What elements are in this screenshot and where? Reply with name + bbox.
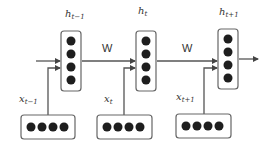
- input-arrow-3: [204, 68, 217, 114]
- input-label-curr: xt: [104, 93, 113, 106]
- input-vector-curr: [97, 115, 152, 139]
- input-arrow-1: [48, 68, 60, 115]
- hidden-state-curr: [136, 31, 156, 91]
- input-arrow-2: [124, 68, 135, 115]
- rnn-diagram: W W ht−1 ht ht+1 xt−1: [0, 0, 273, 145]
- hidden-label-curr: ht: [138, 5, 147, 18]
- weight-label-1: W: [102, 42, 113, 54]
- hidden-label-next: ht+1: [219, 6, 239, 19]
- input-label-prev: xt−1: [19, 93, 38, 106]
- input-vector-prev: [21, 115, 75, 139]
- weight-label-2: W: [182, 42, 193, 54]
- input-label-next: xt+1: [176, 91, 195, 104]
- input-vector-next: [176, 114, 231, 138]
- hidden-label-prev: ht−1: [65, 8, 85, 21]
- hidden-state-next: [218, 29, 238, 89]
- hidden-state-prev: [61, 31, 81, 91]
